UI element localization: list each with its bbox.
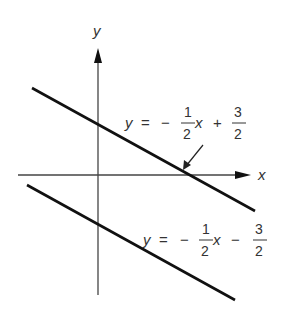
svg-text:2: 2	[201, 243, 209, 259]
svg-text:2: 2	[234, 126, 242, 142]
svg-text:−: −	[161, 114, 170, 131]
svg-text:=: =	[159, 231, 168, 248]
svg-text:−: −	[180, 231, 189, 248]
svg-text:2: 2	[255, 243, 263, 259]
svg-text:1: 1	[202, 221, 210, 237]
x-axis-arrow-icon	[235, 171, 251, 179]
diagram-canvas: y x y = − 1 2 x + 3 2 y = − 1 2 x − 3 2	[0, 0, 287, 321]
svg-text:y: y	[142, 231, 152, 248]
pointer-arrow	[186, 145, 203, 166]
svg-text:3: 3	[234, 104, 242, 120]
svg-text:2: 2	[183, 126, 191, 142]
lower-equation-label: y = − 1 2 x − 3 2	[142, 221, 267, 259]
upper-line	[32, 88, 255, 211]
svg-text:3: 3	[255, 221, 263, 237]
svg-text:x: x	[212, 231, 221, 248]
svg-text:+: +	[213, 114, 222, 131]
upper-equation-label: y = − 1 2 x + 3 2	[124, 104, 246, 142]
y-axis-arrow-icon	[94, 48, 102, 63]
svg-text:=: =	[141, 114, 150, 131]
svg-text:y: y	[124, 114, 134, 131]
x-axis-label: x	[257, 166, 266, 183]
svg-text:1: 1	[184, 104, 192, 120]
svg-text:−: −	[231, 231, 240, 248]
svg-text:x: x	[194, 114, 203, 131]
y-axis-label: y	[92, 22, 102, 39]
